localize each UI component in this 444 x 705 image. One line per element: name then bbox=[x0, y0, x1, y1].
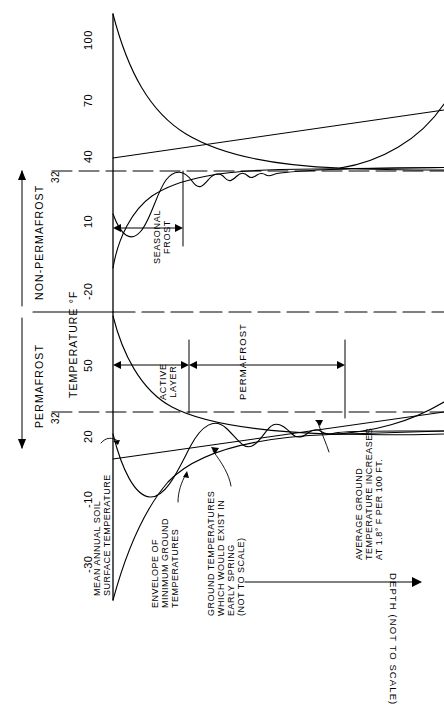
annotation-mean-annual-soil-surface-temperature: MEAN ANNUAL SOIL SURFACE TEMPERATURE bbox=[92, 474, 112, 596]
tick-label-70: 70 bbox=[82, 94, 94, 107]
tick-label-50: 50 bbox=[82, 359, 94, 372]
envelope-max-upper-tail bbox=[340, 104, 444, 168]
leader-arrow-early-spring bbox=[211, 447, 219, 454]
envelope-max-upper bbox=[113, 14, 444, 170]
average-temperature-line-lower bbox=[113, 412, 444, 459]
tick-label-100: 100 bbox=[82, 30, 94, 50]
temperature-axis-label: TEMPERATURE °F bbox=[68, 291, 80, 399]
annotation-average-ground-temperature: AVERAGE GROUND TEMPERATURE INCREASES AT … bbox=[354, 428, 384, 560]
tick-label-20: 20 bbox=[82, 430, 94, 443]
tick-label-40: 40 bbox=[82, 150, 94, 163]
region-label-non-permafrost: NON-PERMAFROST bbox=[34, 185, 46, 300]
non-permafrost-region-arrow bbox=[18, 170, 26, 306]
leader-ground-temperatures-early-spring bbox=[213, 451, 231, 486]
leader-arrow-mean-annual bbox=[113, 440, 120, 445]
permafrost-region-arrow bbox=[18, 318, 26, 449]
leader-envelope-of-minimum bbox=[178, 474, 186, 502]
dimension-label-active-layer: ACTIVE LAYER bbox=[158, 363, 178, 400]
seasonal-frost-dimension bbox=[113, 171, 183, 246]
leader-average-ground-temperature bbox=[318, 423, 329, 452]
dimension-label-permafrost-extent: PERMAFROST bbox=[238, 323, 249, 400]
depth-axis-label: DEPTH (NOT TO SCALE) bbox=[387, 573, 398, 705]
annotation-ground-temperatures-early-spring: GROUND TEMPERATURES WHICH WOULD EXIST IN… bbox=[206, 491, 246, 616]
annotation-envelope-of-minimum-ground-temperatures: ENVELOPE OF MINIMUM GROUND TEMPERATURES bbox=[150, 518, 180, 608]
average-temperature-line-upper bbox=[113, 110, 444, 158]
envelope-min-lower-tail bbox=[330, 402, 444, 435]
leader-arrow-envelope-min bbox=[183, 471, 189, 478]
dimension-label-seasonal-frost: SEASONAL FROST bbox=[152, 210, 172, 264]
tick-label-10: 10 bbox=[82, 215, 94, 228]
tick-label-minus-20: -20 bbox=[82, 283, 94, 300]
freezing-label-lower: 32 bbox=[50, 412, 61, 424]
freezing-label-upper: 32 bbox=[50, 171, 61, 183]
permafrost-extent-dimension bbox=[189, 340, 345, 418]
region-label-permafrost: PERMAFROST bbox=[34, 344, 46, 428]
